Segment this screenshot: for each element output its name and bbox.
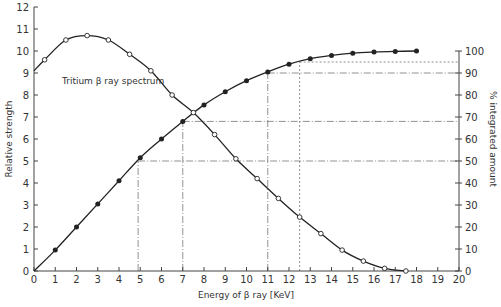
filled-circle-marker xyxy=(350,51,355,56)
filled-circle-marker xyxy=(95,201,100,206)
y2-tick-label: 30 xyxy=(465,200,478,211)
x-tick-label: 16 xyxy=(368,274,381,285)
y2-tick-label: 0 xyxy=(465,266,471,277)
open-circle-marker xyxy=(276,196,281,201)
y-tick-label: 3 xyxy=(23,200,29,211)
x-tick-label: 19 xyxy=(431,274,444,285)
filled-circle-marker xyxy=(117,178,122,183)
y-tick-label: 7 xyxy=(23,112,29,123)
x-tick-label: 20 xyxy=(453,274,466,285)
x-tick-label: 6 xyxy=(158,274,164,285)
open-circle-marker xyxy=(212,132,217,137)
x-tick-label: 11 xyxy=(261,274,274,285)
y2-tick-label: 40 xyxy=(465,178,478,189)
axes: 0123456789101112131415161718192001234567… xyxy=(16,2,484,286)
y2-tick-label: 10 xyxy=(465,244,478,255)
y-tick-label: 5 xyxy=(23,156,29,167)
filled-circle-marker xyxy=(329,53,334,58)
open-circle-marker xyxy=(255,176,260,181)
x-tick-label: 1 xyxy=(52,274,58,285)
x-tick-label: 15 xyxy=(346,274,359,285)
open-circle-marker xyxy=(234,157,239,162)
y2-tick-label: 100 xyxy=(465,46,484,57)
y-axis-title: Relative strength xyxy=(4,100,14,177)
open-circle-marker xyxy=(42,58,47,63)
open-circle-marker xyxy=(404,269,409,274)
y-tick-label: 6 xyxy=(23,134,29,145)
open-circle-marker xyxy=(149,69,154,74)
data-curves xyxy=(34,36,417,271)
open-circle-marker xyxy=(340,248,345,253)
y-tick-label: 10 xyxy=(16,46,29,57)
filled-circle-marker xyxy=(265,69,270,74)
x-tick-label: 0 xyxy=(31,274,37,285)
reference-lines xyxy=(138,62,459,271)
y-tick-label: 1 xyxy=(23,244,29,255)
spectrum-curve xyxy=(34,36,406,271)
open-circle-marker xyxy=(191,110,196,115)
y-tick-label: 4 xyxy=(23,178,29,189)
open-circle-marker xyxy=(382,266,387,271)
open-circle-marker xyxy=(106,38,111,43)
x-tick-label: 9 xyxy=(222,274,228,285)
filled-circle-marker xyxy=(244,78,249,83)
y-tick-label: 11 xyxy=(16,24,29,35)
tritium-spectrum-chart: 0123456789101112131415161718192001234567… xyxy=(0,0,501,307)
open-circle-marker xyxy=(170,93,175,98)
filled-circle-marker xyxy=(372,50,377,55)
filled-circle-marker xyxy=(223,89,228,94)
y2-tick-label: 20 xyxy=(465,222,478,233)
x-tick-label: 18 xyxy=(410,274,423,285)
filled-circle-marker xyxy=(393,49,398,54)
open-circle-marker xyxy=(319,231,324,236)
open-circle-marker xyxy=(85,33,90,38)
x-tick-label: 4 xyxy=(116,274,122,285)
x-tick-label: 3 xyxy=(95,274,101,285)
y-tick-label: 8 xyxy=(23,90,29,101)
y2-axis-title: % integrated amount xyxy=(488,91,498,187)
filled-circle-marker xyxy=(287,62,292,67)
filled-circle-marker xyxy=(202,102,207,107)
open-circle-marker xyxy=(297,215,302,220)
open-circle-marker xyxy=(127,52,132,57)
chart-annotation: Tritium β ray spectrum xyxy=(61,76,164,86)
y2-tick-label: 50 xyxy=(465,156,478,167)
filled-circle-marker xyxy=(308,56,313,61)
y2-tick-label: 90 xyxy=(465,68,478,79)
x-tick-label: 7 xyxy=(180,274,186,285)
open-circle-marker xyxy=(64,38,69,43)
y2-tick-label: 80 xyxy=(465,90,478,101)
open-circle-marker xyxy=(361,259,366,264)
x-tick-label: 8 xyxy=(201,274,207,285)
x-tick-label: 10 xyxy=(240,274,253,285)
x-axis-title: Energy of β ray [KeV] xyxy=(198,290,294,300)
x-tick-label: 13 xyxy=(304,274,317,285)
y-tick-label: 0 xyxy=(23,266,29,277)
y2-tick-label: 70 xyxy=(465,112,478,123)
y-tick-label: 9 xyxy=(23,68,29,79)
x-tick-label: 12 xyxy=(283,274,296,285)
y-tick-label: 2 xyxy=(23,222,29,233)
x-tick-label: 5 xyxy=(137,274,143,285)
y-tick-label: 12 xyxy=(16,2,29,13)
filled-circle-marker xyxy=(180,119,185,124)
filled-circle-marker xyxy=(414,49,419,54)
filled-circle-marker xyxy=(53,248,58,253)
x-tick-label: 2 xyxy=(73,274,79,285)
x-tick-label: 14 xyxy=(325,274,338,285)
x-tick-label: 17 xyxy=(389,274,402,285)
filled-circle-marker xyxy=(138,155,143,160)
y2-tick-label: 60 xyxy=(465,134,478,145)
filled-circle-marker xyxy=(74,225,79,230)
filled-circle-marker xyxy=(159,137,164,142)
